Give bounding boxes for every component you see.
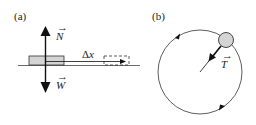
normal-force-vector-mark: → (57, 21, 68, 33)
block (29, 56, 64, 65)
weight-vector-mark: → (57, 70, 68, 82)
path-direction-arrow-icon (219, 105, 225, 111)
panel-a: (a) Δx N → W → (14, 10, 140, 93)
normal-force-arrowhead-icon (41, 26, 51, 36)
tension-vector-mark: → (222, 49, 233, 61)
path-direction-arrow-icon (175, 34, 180, 40)
weight-arrowhead-icon (41, 82, 51, 93)
ball (219, 33, 234, 48)
tension-arrow-shaft (213, 46, 221, 56)
displaced-block-outline (104, 56, 129, 65)
panel-a-label: (a) (14, 10, 27, 23)
panel-b-label: (b) (152, 10, 165, 23)
diagram-canvas: (a) Δx N → W → (b) T → (0, 0, 256, 125)
panel-b: (b) T → (152, 10, 242, 114)
displacement-label: Δx (82, 48, 94, 60)
